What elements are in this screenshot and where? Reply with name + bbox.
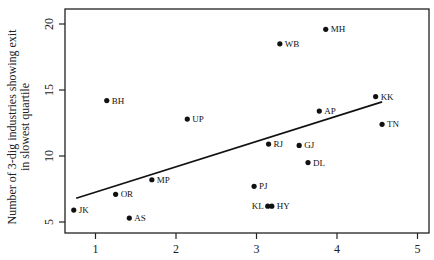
data-point: KL: [252, 201, 271, 211]
point-label: TN: [387, 119, 399, 129]
point-label: RJ: [274, 139, 284, 149]
point-label: JK: [79, 205, 90, 215]
y-axis-label-line: Number of 3-dig industries showing exit: [5, 29, 19, 225]
x-tick-label: 3: [254, 242, 260, 256]
point-label: GJ: [304, 140, 314, 150]
point-marker: [251, 184, 256, 189]
y-tick-label: 20: [42, 18, 56, 30]
point-marker: [113, 192, 118, 197]
data-point: OR: [113, 189, 133, 199]
point-label: KK: [381, 92, 394, 102]
point-marker: [323, 27, 328, 32]
point-label: PJ: [259, 181, 268, 191]
data-point: UP: [185, 114, 204, 124]
y-tick-label: 5: [42, 219, 56, 225]
point-label: OR: [121, 189, 134, 199]
point-marker: [269, 204, 274, 209]
data-point: AS: [127, 213, 146, 223]
point-marker: [185, 116, 190, 121]
point-label: BH: [112, 96, 125, 106]
point-marker: [149, 177, 154, 182]
point-label: MP: [157, 175, 170, 185]
point-label: UP: [192, 114, 204, 124]
point-label: AP: [324, 106, 336, 116]
point-label: WB: [285, 39, 300, 49]
point-marker: [127, 215, 132, 220]
point-marker: [266, 142, 271, 147]
y-axis-label-line: in slowest quartile: [18, 83, 32, 171]
data-points: MHWBBHKKAPUPTNRJGJDLMPPJORKLHYJKAS: [71, 24, 399, 223]
data-point: TN: [379, 119, 399, 129]
x-tick-label: 4: [334, 242, 340, 256]
point-label: DL: [313, 158, 325, 168]
x-axis: 12345: [93, 233, 421, 256]
data-point: DL: [305, 158, 325, 168]
point-marker: [373, 94, 378, 99]
point-marker: [379, 122, 384, 127]
x-tick-label: 5: [415, 242, 421, 256]
data-point: KK: [373, 92, 394, 102]
data-point: PJ: [251, 181, 268, 191]
point-marker: [104, 98, 109, 103]
point-marker: [71, 208, 76, 213]
y-tick-label: 10: [42, 150, 56, 162]
x-tick-label: 2: [173, 242, 179, 256]
point-label: AS: [134, 213, 146, 223]
point-label: KL: [252, 201, 264, 211]
data-point: RJ: [266, 139, 284, 149]
data-point: GJ: [297, 140, 315, 150]
data-point: HY: [269, 201, 290, 211]
scatter-chart: 12345 5101520 MHWBBHKKAPUPTNRJGJDLMPPJOR…: [0, 0, 434, 260]
plot-frame: [65, 9, 429, 233]
point-marker: [297, 143, 302, 148]
data-point: JK: [71, 205, 89, 215]
point-marker: [277, 41, 282, 46]
data-point: MP: [149, 175, 170, 185]
point-label: HY: [277, 201, 290, 211]
data-point: WB: [277, 39, 299, 49]
data-point: BH: [104, 96, 125, 106]
point-marker: [305, 160, 310, 165]
data-point: MH: [323, 24, 346, 34]
y-axis-label: Number of 3-dig industries showing exiti…: [5, 29, 32, 225]
data-point: AP: [317, 106, 336, 116]
regression-line: [76, 102, 382, 198]
y-axis: 5101520: [42, 18, 65, 225]
y-tick-label: 15: [42, 84, 56, 96]
point-marker: [317, 109, 322, 114]
x-tick-label: 1: [93, 242, 99, 256]
point-label: MH: [331, 24, 346, 34]
